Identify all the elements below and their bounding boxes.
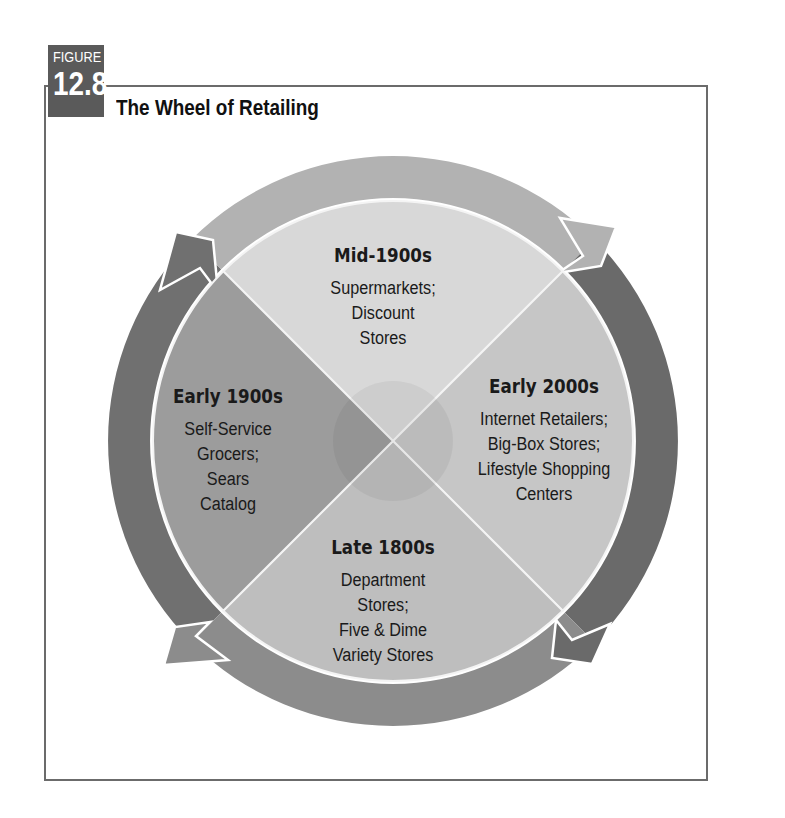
era-description-line: Self-Service bbox=[172, 417, 284, 442]
era-label: Early 1900s bbox=[173, 385, 283, 407]
center-shade bbox=[333, 381, 453, 501]
era-description-line: Sears bbox=[172, 467, 284, 492]
era-description-line: Lifestyle Shopping bbox=[478, 457, 610, 482]
era-label: Early 2000s bbox=[479, 375, 608, 397]
era-description-line: Department bbox=[330, 568, 436, 593]
wheel-diagram bbox=[0, 0, 785, 818]
era-label: Late 1800s bbox=[331, 536, 435, 558]
era-description-line: Variety Stores bbox=[330, 643, 436, 668]
era-description-line: Stores; bbox=[330, 593, 436, 618]
era-label: Mid-1900s bbox=[331, 244, 434, 266]
era-description-line: Internet Retailers; bbox=[478, 407, 610, 432]
segment-label-right: Early 2000s Internet Retailers; Big-Box … bbox=[470, 375, 617, 507]
segment-label-bottom: Late 1800s Department Stores; Five & Dim… bbox=[324, 536, 442, 668]
era-description-line: Discount bbox=[330, 301, 435, 326]
segment-label-left: Early 1900s Self-Service Grocers; Sears … bbox=[166, 385, 291, 517]
era-description-line: Centers bbox=[478, 482, 610, 507]
era-description-line: Grocers; bbox=[172, 442, 284, 467]
era-description-line: Stores bbox=[330, 326, 435, 351]
era-description-line: Supermarkets; bbox=[330, 276, 435, 301]
era-description-line: Big-Box Stores; bbox=[478, 432, 610, 457]
era-description-line: Five & Dime bbox=[330, 618, 436, 643]
segment-label-top: Mid-1900s Supermarkets; Discount Stores bbox=[324, 244, 441, 351]
era-description-line: Catalog bbox=[172, 492, 284, 517]
